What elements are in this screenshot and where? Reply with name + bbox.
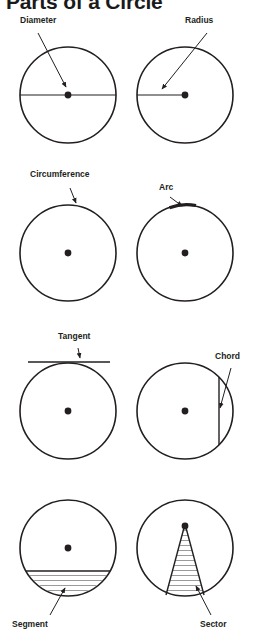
chord-center-dot <box>182 408 189 415</box>
figure-radius <box>137 33 233 143</box>
label-segment: Segment <box>12 619 48 629</box>
circumference-pointer-arrow <box>70 188 76 203</box>
label-chord: Chord <box>215 351 240 361</box>
label-sector: Sector <box>200 619 226 629</box>
figure-arc <box>137 197 233 301</box>
tangent-pointer-arrow <box>78 348 80 358</box>
label-circumference: Circumference <box>30 169 90 179</box>
label-diameter: Diameter <box>20 15 56 25</box>
radius-center-dot <box>182 92 189 99</box>
arc-center-dot <box>182 250 189 257</box>
label-tangent: Tangent <box>58 331 90 341</box>
segment-hatched-region <box>20 571 116 597</box>
figure-sector <box>137 500 233 615</box>
figure-diameter <box>20 33 116 143</box>
circumference-center-dot <box>65 250 72 257</box>
label-arc: Arc <box>159 182 173 192</box>
segment-center-dot <box>65 545 72 552</box>
diameter-center-dot <box>65 92 72 99</box>
diagram-page: Parts of a Circle <box>0 0 253 637</box>
figure-circumference <box>20 188 116 301</box>
circle-diagrams-canvas <box>0 0 253 637</box>
tangent-center-dot <box>65 408 72 415</box>
figure-segment <box>20 500 116 615</box>
label-radius: Radius <box>185 15 213 25</box>
sector-center-dot <box>182 523 189 530</box>
figure-chord <box>137 363 233 459</box>
figure-tangent <box>20 348 116 459</box>
